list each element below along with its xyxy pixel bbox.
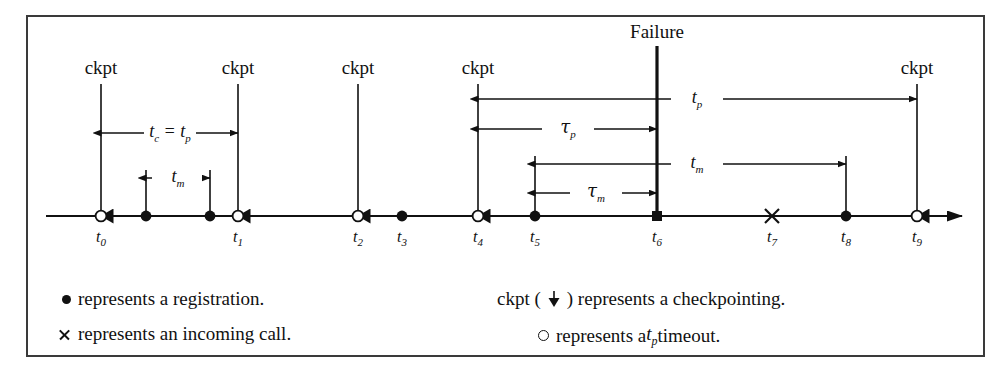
marker-open-circle-t1 bbox=[233, 211, 244, 222]
figure-canvas: ckptckptckptckptckpt t0t1t2t3t4t5t6t7t8t… bbox=[0, 0, 1007, 373]
measure-label-tc-tp: tc = tp bbox=[146, 122, 194, 144]
filled-dot-icon bbox=[62, 295, 71, 304]
marker-registration-r2 bbox=[205, 211, 216, 222]
marker-filled-square-t6 bbox=[652, 211, 662, 221]
marker-open-circle-t9 bbox=[912, 211, 923, 222]
tick-label-t0: t0 bbox=[96, 229, 106, 248]
failure-label: Failure bbox=[630, 22, 684, 41]
ckpt-label-4: ckpt bbox=[901, 58, 934, 77]
marker-filled-dot-t3 bbox=[397, 211, 408, 222]
tick-label-t3: t3 bbox=[397, 229, 407, 248]
ckpt-down-arrow-icon bbox=[543, 290, 565, 308]
timeline-diagram-svg bbox=[0, 0, 1007, 373]
vertical-lines-group bbox=[101, 84, 917, 216]
marker-open-circle-t2 bbox=[353, 211, 364, 222]
tick-label-t1: t1 bbox=[233, 229, 243, 248]
marker-open-circle-t0 bbox=[96, 211, 107, 222]
tick-label-t7: t7 bbox=[767, 229, 777, 248]
measure-label-tm-left: tm bbox=[169, 167, 188, 189]
marker-registration-r1 bbox=[141, 211, 152, 222]
measure-arrows-group bbox=[101, 99, 917, 193]
legend-text-after: timeout. bbox=[658, 325, 721, 347]
measure-label-tau-m: τm bbox=[584, 182, 608, 204]
legend-item-left-1: represents an incoming call. bbox=[58, 323, 291, 345]
legend-text-before: represents a bbox=[556, 325, 646, 347]
tick-label-t9: t9 bbox=[912, 229, 922, 248]
measure-label-tau-p: τp bbox=[557, 118, 578, 140]
measure-label-tm-right: tm bbox=[688, 153, 707, 175]
ckpt-label-3: ckpt bbox=[462, 58, 495, 77]
legend-item-right-1: represents a tp timeout. bbox=[538, 323, 720, 349]
tick-label-t6: t6 bbox=[652, 229, 662, 248]
marker-filled-dot-t5 bbox=[530, 211, 541, 222]
legend-prefix: ckpt ( bbox=[497, 288, 541, 310]
tick-label-t2: t2 bbox=[353, 229, 363, 248]
ckpt-label-2: ckpt bbox=[342, 58, 375, 77]
ckpt-label-0: ckpt bbox=[85, 58, 118, 77]
legend-symbol-tp: tp bbox=[646, 323, 657, 349]
legend-suffix: ) represents a checkpointing. bbox=[567, 288, 785, 310]
open-circle-icon bbox=[538, 330, 549, 341]
marker-filled-dot-t8 bbox=[841, 211, 852, 222]
legend-text: represents an incoming call. bbox=[78, 323, 291, 345]
tick-label-t5: t5 bbox=[530, 229, 540, 248]
cross-icon bbox=[58, 328, 71, 341]
tick-label-t8: t8 bbox=[841, 229, 851, 248]
legend-text: represents a registration. bbox=[78, 288, 264, 310]
measure-label-tp-right: tp bbox=[689, 88, 706, 110]
legend-item-right-0: ckpt () represents a checkpointing. bbox=[497, 288, 785, 310]
ckpt-label-1: ckpt bbox=[222, 58, 255, 77]
legend-item-left-0: represents a registration. bbox=[62, 288, 264, 310]
tick-label-t4: t4 bbox=[473, 229, 483, 248]
marker-open-circle-t4 bbox=[473, 211, 484, 222]
